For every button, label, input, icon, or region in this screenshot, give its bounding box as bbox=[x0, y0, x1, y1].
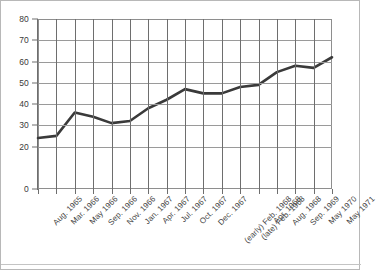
x-axis-labels: Aug. 1965Mar. 1966May 1966Sep. 1966Nov. … bbox=[1, 189, 361, 270]
y-axis: 020304050607080 bbox=[1, 1, 38, 189]
y-tick-label: 20 bbox=[19, 142, 29, 151]
gridline-vertical bbox=[112, 19, 113, 189]
y-tick-label: 50 bbox=[19, 79, 29, 88]
y-tick-label: 80 bbox=[19, 15, 29, 24]
gridline-vertical bbox=[185, 19, 186, 189]
y-tick-label: 60 bbox=[19, 57, 29, 66]
gridline-vertical bbox=[148, 19, 149, 189]
gridline-vertical bbox=[203, 19, 204, 189]
bottom-divider bbox=[1, 264, 361, 265]
gridline-vertical bbox=[75, 19, 76, 189]
gridline-vertical bbox=[56, 19, 57, 189]
gridline-vertical bbox=[314, 19, 315, 189]
gridline-vertical bbox=[130, 19, 131, 189]
plot-area bbox=[38, 19, 332, 189]
gridline-vertical bbox=[167, 19, 168, 189]
gridline-vertical bbox=[277, 19, 278, 189]
y-tick-label: 30 bbox=[19, 121, 29, 130]
gridline-vertical bbox=[222, 19, 223, 189]
y-tick-label: 70 bbox=[19, 36, 29, 45]
gridline-vertical bbox=[295, 19, 296, 189]
gridline-vertical bbox=[240, 19, 241, 189]
gridline-vertical bbox=[259, 19, 260, 189]
y-tick-label: 40 bbox=[19, 100, 29, 109]
gridline-vertical bbox=[93, 19, 94, 189]
